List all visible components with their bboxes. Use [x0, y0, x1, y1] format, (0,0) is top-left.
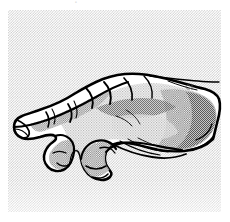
hand-illustration-artwork — [0, 0, 230, 222]
bottom-margin-strip — [0, 213, 230, 222]
top-artifact-mark: ▫ — [75, 0, 77, 5]
figure-root: ▫ — [0, 0, 230, 222]
